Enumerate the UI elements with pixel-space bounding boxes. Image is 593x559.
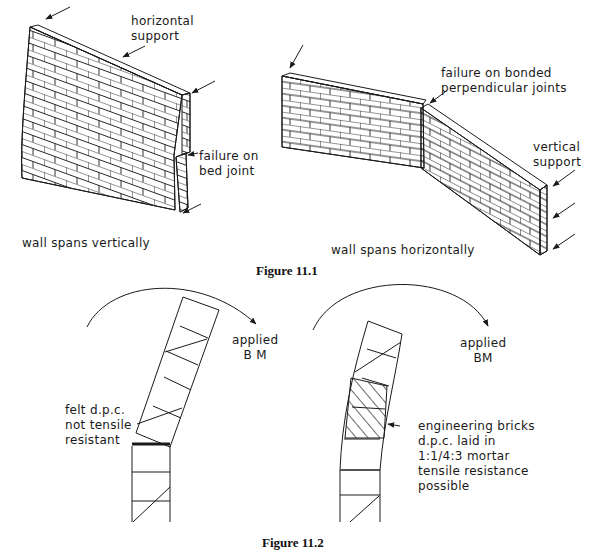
- right-applied-bm-label: applied BM: [460, 336, 506, 366]
- vertical-support-label: vertical support: [533, 140, 581, 170]
- left-wall-title: wall spans vertically: [22, 236, 150, 251]
- figure-11-2-caption: Figure 11.2: [262, 535, 324, 551]
- left-applied-bm-label: applied B M: [232, 333, 278, 363]
- engineering-brick-dpc-label: engineering bricks d.p.c. laid in 1:1/4:…: [418, 419, 535, 494]
- horizontal-support-label: horizontal support: [131, 14, 194, 44]
- figure-11-1-caption: Figure 11.1: [256, 263, 318, 279]
- perpendicular-joint-failure-label: failure on bonded perpendicular joints: [441, 66, 567, 96]
- right-wall-title: wall spans horizontally: [331, 243, 475, 258]
- felt-dpc-label: felt d.p.c. not tensile resistant: [65, 403, 132, 448]
- bed-joint-failure-label: failure on bed joint: [199, 149, 259, 179]
